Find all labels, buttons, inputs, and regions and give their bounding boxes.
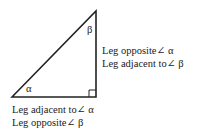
angle-beta-label: β — [87, 24, 92, 36]
bottom-leg-label-1: Leg adjacent to∠ α — [12, 104, 94, 116]
triangle — [12, 11, 96, 97]
angle-alpha-label: α — [26, 83, 32, 95]
bottom-leg-label-2: Leg opposite∠ β — [12, 117, 83, 129]
right-angle-marker — [89, 90, 96, 97]
right-leg-label-1: Leg opposite∠ α — [102, 45, 173, 57]
right-leg-label-2: Leg adjacent to∠ β — [102, 58, 183, 70]
